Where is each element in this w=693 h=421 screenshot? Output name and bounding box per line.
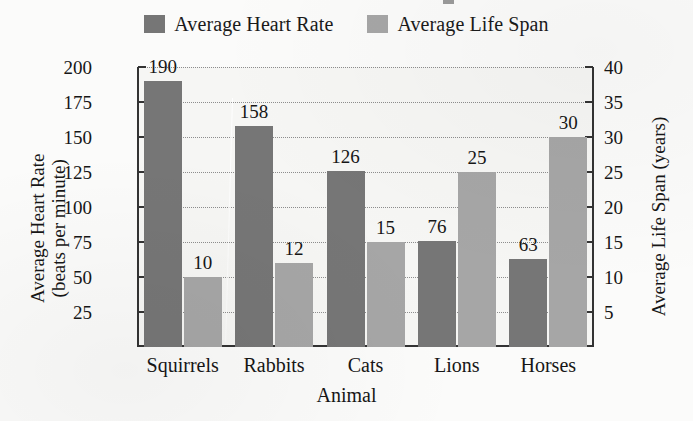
legend-label-life-span: Average Life Span (397, 14, 548, 34)
y-axis-left-tick-label: 50 (73, 268, 92, 287)
y-axis-left-tick-label: 100 (64, 198, 93, 217)
y-axis-left-tick-label: 75 (73, 233, 92, 252)
y-axis-left-tick-label: 200 (64, 58, 93, 77)
legend-item-heart-rate: Average Heart Rate (144, 14, 333, 34)
bar-life-span (458, 172, 496, 347)
bar-value-life-span: 25 (447, 148, 507, 167)
y-axis-left-tick-label: 175 (64, 93, 93, 112)
legend-label-heart-rate: Average Heart Rate (174, 14, 333, 34)
y-axis-left-title-line1: Average Heart Rate (27, 78, 48, 378)
legend-swatch-life-span (367, 15, 388, 33)
bars-layer (137, 67, 594, 347)
y-axis-right-tick-label: 35 (604, 93, 623, 112)
chart-legend: Average Heart Rate Average Life Span (0, 14, 693, 34)
y-axis-right-tick-label: 20 (604, 198, 623, 217)
y-axis-left-tick-label: 125 (64, 163, 93, 182)
bar-value-heart-rate: 63 (498, 235, 558, 254)
bar-value-heart-rate: 126 (316, 147, 376, 166)
y-axis-right-tick-label: 30 (604, 128, 623, 147)
y-axis-left-tick-label: 25 (73, 303, 92, 322)
bar-life-span (184, 277, 222, 347)
bar-heart-rate (327, 171, 365, 347)
y-axis-left-title-line2: (beats per minute) (48, 78, 69, 378)
y-axis-right-tick-label: 40 (604, 58, 623, 77)
y-axis-left-tick-label: 150 (64, 128, 93, 147)
y-axis-right-tick-label: 15 (604, 233, 623, 252)
bar-value-heart-rate: 76 (407, 217, 467, 236)
x-axis-category-label: Horses (488, 355, 609, 375)
y-axis-right-title: Average Life Span (years) (649, 67, 668, 367)
bar-heart-rate (418, 241, 456, 347)
cropped-title-artifact (443, 0, 454, 4)
legend-swatch-heart-rate (144, 15, 165, 33)
bar-value-heart-rate: 158 (224, 102, 284, 121)
bar-value-heart-rate: 190 (133, 57, 193, 76)
legend-item-life-span: Average Life Span (367, 14, 548, 34)
bar-heart-rate (509, 259, 547, 347)
y-axis-right-tick-label: 10 (604, 268, 623, 287)
y-axis-right-tick-label: 5 (604, 303, 614, 322)
y-axis-right-tick-label: 25 (604, 163, 623, 182)
bar-life-span (275, 263, 313, 347)
x-axis-title: Animal (0, 385, 693, 405)
bar-value-life-span: 10 (173, 253, 233, 272)
bar-value-life-span: 12 (264, 239, 324, 258)
bar-life-span (367, 242, 405, 347)
bar-value-life-span: 30 (538, 113, 598, 132)
bar-heart-rate (235, 126, 273, 347)
y-axis-left-title: Average Heart Rate (beats per minute) (27, 78, 70, 378)
bar-heart-rate (144, 81, 182, 347)
